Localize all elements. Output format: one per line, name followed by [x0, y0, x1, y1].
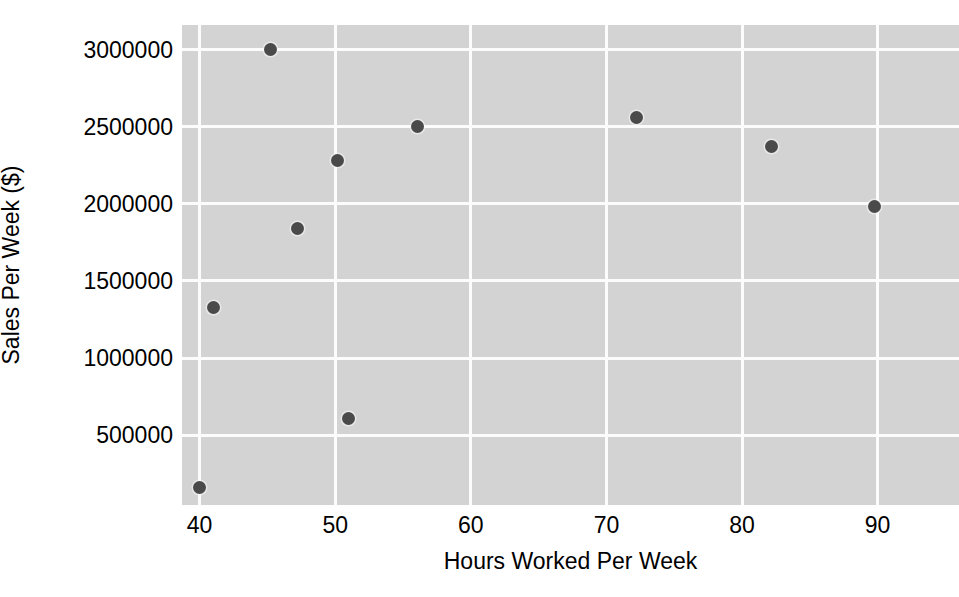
x-axis-tick-label: 70 — [594, 512, 620, 539]
y-axis-title: Sales Per Week ($) — [0, 25, 31, 505]
data-point — [342, 412, 355, 425]
x-axis-tick-label: 60 — [458, 512, 484, 539]
gridline-horizontal-5 — [182, 48, 959, 51]
data-point — [630, 111, 643, 124]
y-axis-tick-label: 1500000 — [83, 267, 173, 294]
data-point — [291, 222, 304, 235]
y-axis-tick-label: 500000 — [96, 422, 173, 449]
gridline-vertical-2 — [469, 25, 472, 505]
gridline-horizontal-4 — [182, 125, 959, 128]
gridline-horizontal-2 — [182, 279, 959, 282]
data-point — [765, 140, 778, 153]
x-axis-tick-label: 40 — [187, 512, 213, 539]
x-axis-tick-label: 50 — [322, 512, 348, 539]
data-point — [264, 43, 277, 56]
gridline-horizontal-3 — [182, 202, 959, 205]
gridline-vertical-5 — [876, 25, 879, 505]
gridline-vertical-1 — [334, 25, 337, 505]
data-point — [411, 120, 424, 133]
gridline-horizontal-1 — [182, 357, 959, 360]
gridline-vertical-3 — [605, 25, 608, 505]
y-axis-tick-label: 2000000 — [83, 190, 173, 217]
x-axis-title: Hours Worked Per Week — [182, 548, 959, 575]
scatter-chart-figure: 5000001000000150000020000002500000300000… — [0, 0, 959, 597]
y-axis-tick-label: 2500000 — [83, 113, 173, 140]
gridline-vertical-4 — [741, 25, 744, 505]
data-point — [207, 301, 220, 314]
gridline-horizontal-0 — [182, 434, 959, 437]
plot-area — [182, 25, 959, 505]
data-point — [331, 154, 344, 167]
y-axis-tick-label: 3000000 — [83, 36, 173, 63]
y-axis-tick-label: 1000000 — [83, 345, 173, 372]
data-point — [868, 200, 881, 213]
gridline-vertical-0 — [198, 25, 201, 505]
data-point — [193, 481, 206, 494]
x-axis-tick-label: 90 — [865, 512, 891, 539]
x-axis-tick-label: 80 — [729, 512, 755, 539]
